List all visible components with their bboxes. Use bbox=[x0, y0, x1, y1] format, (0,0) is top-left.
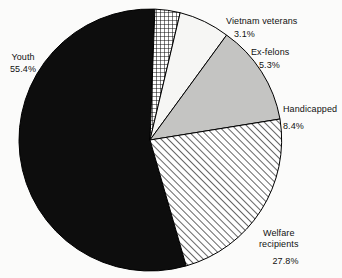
slice-label-percent: 3.1% bbox=[234, 29, 297, 40]
slice-label-handicapped: Handicapped 8.4% bbox=[283, 104, 337, 132]
slice-label-name: Vietnam veterans bbox=[226, 16, 297, 26]
slice-label-name-line1: Welfare bbox=[263, 228, 295, 238]
slice-label-percent: 8.4% bbox=[283, 121, 337, 132]
slice-label-percent: 5.3% bbox=[259, 60, 289, 71]
scan-artifact-top-stub bbox=[1, 0, 43, 6]
slice-label-name: Handicapped bbox=[283, 104, 337, 114]
slice-label-percent: 27.8% bbox=[259, 256, 299, 267]
slice-label-youth: Youth 55.4% bbox=[10, 52, 36, 75]
slice-label-ex-felons: Ex-felons 5.3% bbox=[251, 47, 289, 71]
slice-label-percent: 55.4% bbox=[10, 64, 36, 75]
slice-label-name: Ex-felons bbox=[251, 47, 289, 57]
slice-label-name-line2: recipients bbox=[259, 239, 299, 249]
pie-chart: Vietnam veterans 3.1% Ex-felons 5.3% Han… bbox=[0, 0, 342, 278]
slice-label-welfare-recipients: Welfare recipients 27.8% bbox=[259, 228, 299, 267]
slice-label-vietnam-veterans: Vietnam veterans 3.1% bbox=[226, 16, 297, 40]
slice-label-name: Youth bbox=[11, 52, 34, 62]
